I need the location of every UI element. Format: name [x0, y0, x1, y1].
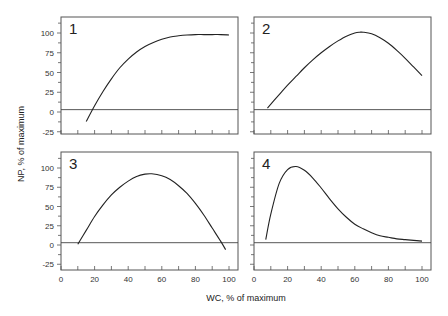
plot-frame — [61, 152, 238, 270]
x-tick-label: 40 — [124, 275, 133, 284]
np-curve — [78, 174, 226, 250]
y-tick-label: 100 — [41, 164, 55, 173]
y-axis-label: NP, % of maximum — [16, 106, 26, 182]
y-tick-label: 0 — [50, 108, 55, 117]
y-tick-label: -25 — [42, 260, 54, 269]
y-tick-label: 75 — [45, 49, 54, 58]
y-tick-label: -25 — [42, 128, 54, 137]
plot-frame — [254, 17, 431, 134]
panel-2: 2 — [250, 17, 431, 134]
x-tick-label: 80 — [191, 275, 200, 284]
y-tick-label: 100 — [41, 29, 55, 38]
y-tick-label: 75 — [45, 183, 54, 192]
panel-number: 3 — [69, 155, 77, 172]
np-curve — [86, 35, 229, 122]
x-tick-label: 0 — [252, 275, 257, 284]
x-tick-label: 100 — [415, 275, 429, 284]
y-tick-label: 0 — [50, 241, 55, 250]
np-curve — [266, 166, 422, 241]
panel-number: 2 — [262, 20, 270, 37]
panel-1: 1007550250-251 — [41, 17, 238, 137]
x-tick-label: 80 — [384, 275, 393, 284]
np-curve — [267, 32, 422, 108]
x-tick-label: 20 — [90, 275, 99, 284]
y-tick-label: 25 — [45, 222, 54, 231]
x-tick-label: 100 — [222, 275, 236, 284]
y-tick-label: 50 — [45, 203, 54, 212]
x-axis-label: WC, % of maximum — [206, 293, 286, 303]
chart-figure: 1007550250-25121007550250-25020406080100… — [0, 0, 448, 316]
y-tick-label: 25 — [45, 88, 54, 97]
x-tick-label: 60 — [350, 275, 359, 284]
x-tick-label: 40 — [317, 275, 326, 284]
panel-3: 1007550250-250204060801003 — [41, 152, 238, 284]
panel-number: 4 — [262, 155, 270, 172]
x-tick-label: 60 — [157, 275, 166, 284]
x-tick-label: 0 — [59, 275, 64, 284]
panel-4: 0204060801004 — [250, 152, 431, 284]
x-tick-label: 20 — [283, 275, 292, 284]
y-tick-label: 50 — [45, 69, 54, 78]
plot-frame — [254, 152, 431, 270]
panel-number: 1 — [69, 20, 77, 37]
